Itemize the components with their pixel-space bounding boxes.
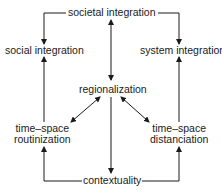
arrow-regionalization-routinization xyxy=(71,97,100,122)
arrow-contextuality-to-distanciation xyxy=(142,147,179,181)
node-social-integration: social integration xyxy=(5,45,84,56)
arrow-societal-to-system xyxy=(158,13,179,44)
arrow-societal-to-social xyxy=(44,13,66,44)
diagram-connectors xyxy=(0,0,222,192)
node-time-space-distanciation: time–space distanciation xyxy=(150,123,208,145)
node-contextuality: contextuality xyxy=(83,175,141,186)
routinization-line-2: routinization xyxy=(14,134,71,145)
node-societal-integration: societal integration xyxy=(68,7,156,18)
arrow-regionalization-distanciation xyxy=(121,97,149,122)
node-time-space-routinization: time–space routinization xyxy=(14,123,71,145)
arrow-contextuality-to-routinization xyxy=(44,147,82,181)
node-system-integration: system integration xyxy=(140,45,222,56)
node-regionalization: regionalization xyxy=(79,84,147,95)
distanciation-line-2: distanciation xyxy=(150,134,208,145)
